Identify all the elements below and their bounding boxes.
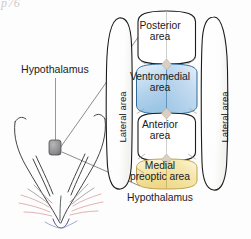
figure-canvas: p76 Hypothalamus Posterior area Ventrome… <box>0 0 251 239</box>
posterior-area-shape <box>138 11 196 64</box>
whiskers <box>19 184 103 228</box>
hypothalamus-diagram-svg <box>0 0 251 239</box>
probe-marker <box>49 140 61 155</box>
ventromedial-area-shape <box>137 64 198 114</box>
lateral-area-left-shape <box>106 18 132 189</box>
anterior-area-shape <box>138 113 196 161</box>
lateral-area-right-shape <box>201 17 228 190</box>
